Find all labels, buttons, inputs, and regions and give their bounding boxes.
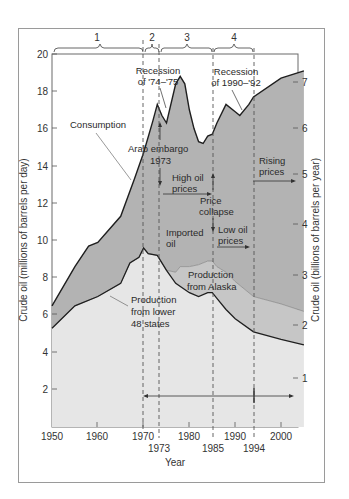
svg-text:4: 4 bbox=[42, 347, 48, 358]
period-braces bbox=[54, 44, 253, 52]
svg-text:oil: oil bbox=[166, 238, 176, 249]
svg-text:1973: 1973 bbox=[150, 155, 171, 166]
oil-chart: 1 2 3 4 20 18 16 14 12 10 8 6 4 2 Crude … bbox=[0, 0, 349, 499]
svg-text:5: 5 bbox=[302, 169, 308, 180]
high-oil-prices-label: High oil bbox=[172, 172, 204, 183]
y-axis-title: Crude oil (millions of barrels per day) bbox=[18, 158, 29, 321]
svg-text:12: 12 bbox=[37, 198, 49, 209]
svg-text:from lower: from lower bbox=[131, 306, 175, 317]
period-2-label: 2 bbox=[149, 32, 155, 43]
svg-text:of '74–'75: of '74–'75 bbox=[138, 76, 179, 87]
svg-text:2000: 2000 bbox=[270, 431, 293, 442]
svg-text:prices: prices bbox=[172, 183, 198, 194]
imported-oil-label: Imported bbox=[166, 227, 204, 238]
period-1-label: 1 bbox=[94, 32, 100, 43]
svg-text:1970: 1970 bbox=[132, 431, 155, 442]
consumption-label: Consumption bbox=[70, 119, 126, 130]
svg-text:7: 7 bbox=[302, 77, 308, 88]
svg-text:14: 14 bbox=[37, 161, 49, 172]
svg-text:6: 6 bbox=[42, 309, 48, 320]
svg-text:1980: 1980 bbox=[178, 431, 201, 442]
svg-text:10: 10 bbox=[37, 235, 49, 246]
svg-text:prices: prices bbox=[259, 166, 285, 177]
svg-text:of 1990–'92: of 1990–'92 bbox=[211, 77, 260, 88]
price-collapse-label: Price bbox=[200, 195, 222, 206]
recession-7475-label: Recession bbox=[136, 65, 180, 76]
period-4-label: 4 bbox=[231, 32, 237, 43]
svg-text:prices: prices bbox=[218, 235, 244, 246]
svg-text:2: 2 bbox=[42, 384, 48, 395]
svg-text:from Alaska: from Alaska bbox=[187, 281, 237, 292]
svg-text:8: 8 bbox=[42, 272, 48, 283]
lower48-production-label: Production bbox=[131, 294, 176, 305]
svg-text:1950: 1950 bbox=[41, 431, 64, 442]
svg-text:6: 6 bbox=[302, 123, 308, 134]
embargo-label: Arab embargo bbox=[128, 143, 188, 154]
svg-text:1973: 1973 bbox=[148, 443, 171, 454]
svg-text:4: 4 bbox=[302, 219, 308, 230]
svg-text:collapse: collapse bbox=[199, 206, 234, 217]
svg-text:1985: 1985 bbox=[202, 443, 225, 454]
low-oil-prices-label: Low oil bbox=[218, 224, 248, 235]
svg-text:1: 1 bbox=[302, 373, 308, 384]
x-axis-title: Year bbox=[165, 457, 186, 468]
svg-text:3: 3 bbox=[302, 270, 308, 281]
svg-text:16: 16 bbox=[37, 123, 49, 134]
period-3-label: 3 bbox=[184, 32, 190, 43]
x-axis-labels: 1950 1960 1970 1980 1990 2000 1973 1985 … bbox=[41, 431, 293, 454]
rising-prices-label: Rising bbox=[259, 155, 285, 166]
svg-text:48 states: 48 states bbox=[131, 318, 170, 329]
svg-text:1990: 1990 bbox=[224, 431, 247, 442]
recession-9092-label: Recession bbox=[214, 66, 258, 77]
y2-axis-title: Crude oil (billions of barrels per year) bbox=[310, 158, 321, 322]
alaska-production-label: Production bbox=[188, 269, 233, 280]
svg-text:2: 2 bbox=[302, 320, 308, 331]
left-axis-labels: 20 18 16 14 12 10 8 6 4 2 bbox=[37, 49, 49, 395]
svg-text:18: 18 bbox=[37, 86, 49, 97]
svg-text:1994: 1994 bbox=[243, 443, 266, 454]
svg-text:20: 20 bbox=[37, 49, 49, 60]
svg-text:1960: 1960 bbox=[86, 431, 109, 442]
